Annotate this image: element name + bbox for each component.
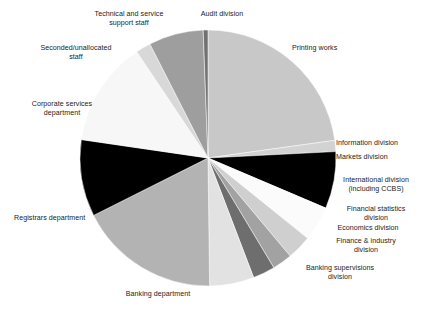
pie-label-registrars-department: Registrars department [14,214,118,223]
pie-label-markets-division: Markets division [336,153,422,162]
pie-label-financial-statistics-division: Financial statistics division [330,205,422,222]
pie-label-technical-and-service-support-staff: Technical and service support staff [74,10,184,27]
pie-label-seconded-unallocated-staff: Seconded/unallocated staff [22,44,130,61]
pie-label-information-division: Information division [336,139,422,148]
pie-label-corporate-services-department: Corporate services department [14,100,110,117]
pie-label-banking-supervisions-division: Banking supervisions division [286,264,394,281]
pie-label-banking-department: Banking department [106,290,210,299]
pie-label-printing-works: Printing works [292,44,368,53]
pie-label-finance-and-industry-division: Finance & industry division [318,237,414,254]
pie-label-economics-division: Economics division [320,224,416,233]
pie-label-international-division: International division (including CCBS) [330,176,422,193]
pie-label-audit-division: Audit division [186,10,258,19]
pie-chart-figure: Technical and service support staffAudit… [0,0,422,309]
